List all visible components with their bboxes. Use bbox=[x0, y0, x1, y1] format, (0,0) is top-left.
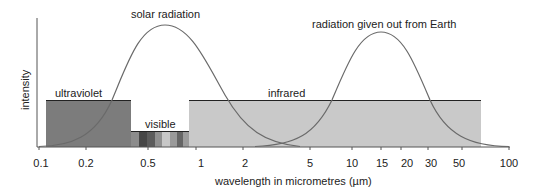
tick-label: 15 bbox=[376, 157, 388, 169]
ultraviolet-label: ultraviolet bbox=[55, 87, 102, 99]
tick-label: 100 bbox=[500, 157, 518, 169]
tick-label: 5 bbox=[307, 157, 313, 169]
tick-label: 0.2 bbox=[78, 157, 93, 169]
earth-radiation-label: radiation given out from Earth bbox=[312, 18, 456, 30]
tick-label: 0.5 bbox=[140, 157, 155, 169]
x-tick-labels: 0.1 0.2 0.5 1 2 5 10 15 20 30 50 100 bbox=[33, 157, 518, 169]
infrared-label: infrared bbox=[268, 87, 305, 99]
tick-label: 10 bbox=[346, 157, 358, 169]
visible-label: visible bbox=[145, 118, 176, 130]
y-axis-label: intensity bbox=[19, 69, 31, 110]
tick-label: 0.1 bbox=[33, 157, 48, 169]
solar-radiation-label: solar radiation bbox=[131, 8, 200, 20]
tick-label: 50 bbox=[453, 157, 465, 169]
x-axis-label: wavelength in micrometres (µm) bbox=[214, 175, 372, 187]
tick-label: 1 bbox=[198, 157, 204, 169]
ultraviolet-band bbox=[46, 100, 131, 147]
tick-label: 2 bbox=[242, 157, 248, 169]
tick-label: 30 bbox=[425, 157, 437, 169]
tick-label: 20 bbox=[401, 157, 413, 169]
visible-band bbox=[131, 131, 189, 147]
radiation-spectrum-diagram: intensity solar radiation radiation give… bbox=[0, 0, 541, 194]
